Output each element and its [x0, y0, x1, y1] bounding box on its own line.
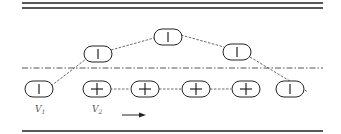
vehicle-a2 [154, 29, 182, 45]
vehicle-p6 [276, 81, 304, 97]
direction-arrow-icon [122, 113, 146, 118]
vehicle-p3 [131, 81, 159, 97]
vehicle-v1 [25, 81, 53, 97]
vehicle-p4 [182, 81, 210, 97]
vehicle-a1 [84, 46, 112, 62]
vehicle-p5 [232, 81, 260, 97]
vehicle-v2 [83, 81, 111, 97]
upper-arc [84, 29, 251, 62]
label-v1: V1 [35, 104, 45, 115]
vehicle-a3 [223, 44, 251, 60]
vehicle-overtaking-diagram: V1 V2 [0, 0, 341, 134]
label-v2: V2 [92, 104, 103, 115]
